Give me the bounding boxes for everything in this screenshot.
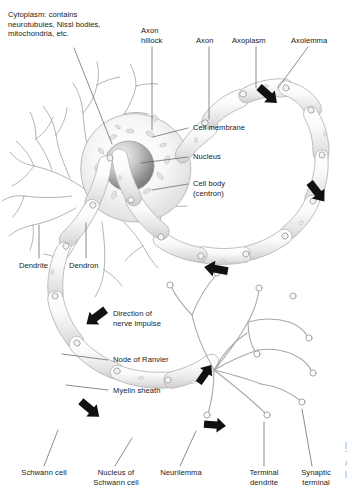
- label-direction-of-nerve-impulse: Direction of nerve impulse: [113, 309, 161, 328]
- label-axoplasm: Axoplasm: [232, 36, 266, 46]
- label-dendrite: Dendrite: [19, 261, 48, 271]
- clipped-edge-text: | ‾ / |: [345, 440, 352, 490]
- nodes-of-ranvier: [52, 84, 325, 383]
- label-nucleus: Nucleus: [193, 152, 221, 162]
- label-terminal-dendrite: Terminal dendrite: [238, 468, 290, 487]
- label-axon-hillock: Axon hillock: [141, 26, 162, 45]
- arrow-icon: [82, 303, 111, 330]
- neuron-illustration: [0, 0, 352, 500]
- label-neurilemma: Neurilemma: [150, 468, 212, 478]
- label-axon: Axon: [196, 36, 214, 46]
- label-axolemma: Axolemma: [291, 36, 327, 46]
- label-synaptic-terminal: Synaptic terminal: [290, 468, 342, 487]
- label-cell-body: Cell body (centron): [193, 179, 225, 198]
- label-node-of-ranvier: Node of Ranvier: [113, 355, 169, 365]
- label-nucleus-of-schwann-cell: Nucleus of Schwann cell: [83, 468, 149, 487]
- arrow-icon: [203, 417, 226, 434]
- label-cytoplasm: Cytoplasm: contains neurotubules, Nissl …: [8, 10, 101, 39]
- label-cell-membrane: Cell membrane: [193, 123, 245, 133]
- label-schwann-cell: Schwann cell: [8, 468, 80, 478]
- label-dendron: Dendron: [69, 261, 98, 271]
- label-myelin-sheath: Myelin sheath: [113, 386, 161, 396]
- arrow-icon: [76, 395, 105, 423]
- neuron-diagram-figure: Cytoplasm: contains neurotubules, Nissl …: [0, 0, 352, 500]
